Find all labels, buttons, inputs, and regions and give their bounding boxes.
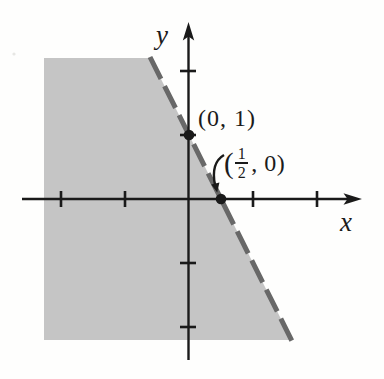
point-dot-0 xyxy=(184,130,195,141)
point-label-open-paren: ( xyxy=(224,149,234,178)
y-axis-label: y xyxy=(156,22,168,49)
pointer-arrow-curve xyxy=(214,155,224,185)
point-label-half-0: ( 1 2 , 0) xyxy=(224,146,285,180)
plot-canvas xyxy=(0,0,384,379)
point-dot-1 xyxy=(216,194,227,205)
fraction-one-half: 1 2 xyxy=(235,146,248,180)
x-axis-label: x xyxy=(340,209,352,236)
fraction-denominator: 2 xyxy=(238,165,246,180)
inequality-graph-figure: y x (0, 1) ( 1 2 , 0) xyxy=(0,0,384,379)
fraction-numerator: 1 xyxy=(238,146,246,161)
point-label-0-1: (0, 1) xyxy=(198,106,256,130)
scan-artifact-dot xyxy=(12,52,15,55)
point-label-close: , 0) xyxy=(251,151,285,175)
